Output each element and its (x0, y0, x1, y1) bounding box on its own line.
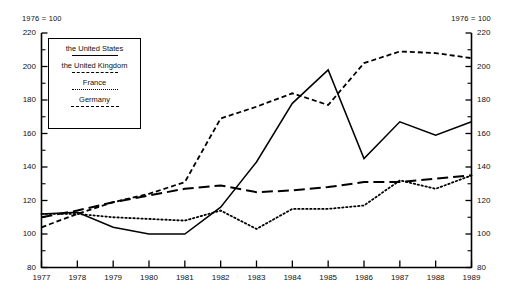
y-axis-tick-label-right: 120 (477, 196, 501, 205)
y-axis-tick-label-right: 80 (477, 263, 501, 272)
y-axis-tick-label-right: 200 (477, 62, 501, 71)
x-axis-tick-label: 1986 (344, 273, 384, 282)
y-axis-tick-label-left: 160 (14, 129, 36, 138)
x-axis-tick-label: 1987 (380, 273, 420, 282)
y-axis-tick-label-left: 200 (14, 62, 36, 71)
line-chart: 1976 = 100 1976 = 100 801001201401601802… (0, 0, 513, 296)
x-axis-tick-label: 1979 (93, 273, 133, 282)
legend-item-united-kingdom: the United Kingdom (49, 61, 140, 73)
x-axis-tick-label: 1984 (272, 273, 312, 282)
y-axis-tick-label-left: 80 (14, 263, 36, 272)
x-axis-tick-label: 1977 (22, 273, 62, 282)
legend: the United States the United Kingdom Fra… (48, 38, 141, 129)
long-dashed-line-swatch (71, 106, 119, 107)
x-axis-tick-label: 1983 (237, 273, 277, 282)
legend-label-france: France (49, 78, 140, 87)
legend-item-germany: Germany (49, 95, 140, 107)
y-axis-tick-label-right: 100 (477, 229, 501, 238)
dashed-line-swatch (72, 72, 118, 73)
y-axis-tick-label-right: 160 (477, 129, 501, 138)
series-line-germany (42, 175, 472, 217)
x-axis-tick-label: 1980 (129, 273, 169, 282)
solid-line-swatch (72, 55, 118, 56)
legend-label-germany: Germany (49, 95, 140, 104)
y-axis-tick-label-right: 140 (477, 162, 501, 171)
y-axis-tick-label-left: 220 (14, 28, 36, 37)
y-axis-tick-label-left: 100 (14, 229, 36, 238)
legend-item-united-states: the United States (49, 44, 140, 56)
y-axis-tick-label-left: 120 (14, 196, 36, 205)
y-axis-tick-label-right: 180 (477, 95, 501, 104)
x-axis-ticks (42, 261, 472, 268)
dotted-line-swatch (72, 89, 118, 90)
y-axis-tick-label-left: 140 (14, 162, 36, 171)
x-axis-tick-label: 1978 (57, 273, 97, 282)
y-axis-tick-label-left: 180 (14, 95, 36, 104)
series-line-france (42, 175, 472, 229)
x-axis-tick-label: 1981 (165, 273, 205, 282)
x-axis-tick-label: 1985 (308, 273, 348, 282)
legend-label-united-states: the United States (49, 44, 140, 53)
legend-item-france: France (49, 78, 140, 90)
y-axis-tick-label-right: 220 (477, 28, 501, 37)
x-axis-tick-label: 1982 (201, 273, 241, 282)
legend-label-united-kingdom: the United Kingdom (49, 61, 140, 70)
x-axis-tick-label: 1989 (452, 273, 492, 282)
x-axis-tick-label: 1988 (416, 273, 456, 282)
